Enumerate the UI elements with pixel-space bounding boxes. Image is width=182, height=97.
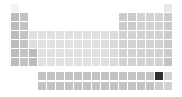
element-cell-es xyxy=(128,82,136,90)
element-cell-lu xyxy=(164,72,172,80)
element-cell-ru xyxy=(74,40,82,48)
element-cell-re xyxy=(65,49,73,57)
element-cell-sc xyxy=(29,31,37,39)
element-cell-y xyxy=(29,40,37,48)
element-cell-he xyxy=(164,4,172,12)
element-cell-mc xyxy=(137,58,145,66)
element-cell-mg xyxy=(20,22,28,30)
element-cell-np xyxy=(74,82,82,90)
element-cell-tl xyxy=(119,49,127,57)
element-cell-hg xyxy=(110,49,118,57)
element-cell-tc xyxy=(65,40,73,48)
element-cell-sg xyxy=(56,58,64,66)
element-cell-md xyxy=(146,82,154,90)
element-cell-hf xyxy=(38,49,46,57)
element-cell-lv xyxy=(146,58,154,66)
element-cell-ar xyxy=(164,22,172,30)
element-cell-no xyxy=(155,82,163,90)
element-cell-os xyxy=(74,49,82,57)
element-cell-eu xyxy=(92,72,100,80)
element-cell-mn xyxy=(65,31,73,39)
element-cell-th xyxy=(47,82,55,90)
element-cell-nb xyxy=(47,40,55,48)
element-cell-cu xyxy=(101,31,109,39)
element-cell-ts xyxy=(155,58,163,66)
element-cell-al xyxy=(119,22,127,30)
element-cell-ra xyxy=(20,58,28,66)
element-cell-sn xyxy=(128,40,136,48)
element-cell-bh xyxy=(65,58,73,66)
element-cell-pt xyxy=(92,49,100,57)
element-cell-mo xyxy=(56,40,64,48)
element-cell-p xyxy=(137,22,145,30)
element-cell-n xyxy=(137,13,145,21)
element-cell-hs xyxy=(74,58,82,66)
element-cell-er xyxy=(137,72,145,80)
element-cell-na xyxy=(11,22,19,30)
element-cell-bi xyxy=(137,49,145,57)
element-cell-k xyxy=(11,31,19,39)
element-cell-rg xyxy=(101,58,109,66)
element-cell-ce xyxy=(47,72,55,80)
element-cell-c xyxy=(128,13,136,21)
element-cell-kr xyxy=(164,31,172,39)
element-cell-yb xyxy=(155,72,163,80)
element-cell-o xyxy=(146,13,154,21)
element-cell-cn xyxy=(110,58,118,66)
element-cell-ti xyxy=(38,31,46,39)
element-cell-mt xyxy=(83,58,91,66)
element-cell-in xyxy=(119,40,127,48)
element-cell-ta xyxy=(47,49,55,57)
element-cell-at xyxy=(155,49,163,57)
element-cell-au xyxy=(101,49,109,57)
element-cell-gd xyxy=(101,72,109,80)
element-cell-v xyxy=(47,31,55,39)
element-cell-og xyxy=(164,58,172,66)
element-cell-db xyxy=(47,58,55,66)
element-cell-po xyxy=(146,49,154,57)
element-cell-rf xyxy=(38,58,46,66)
element-cell-rn xyxy=(164,49,172,57)
element-cell-ba xyxy=(20,49,28,57)
element-cell-xe xyxy=(164,40,172,48)
element-cell-la-placeholder xyxy=(29,49,37,57)
element-cell-nd xyxy=(65,72,73,80)
element-cell-pu xyxy=(83,82,91,90)
element-cell-cs xyxy=(11,49,19,57)
periodic-table-heatmap xyxy=(0,0,182,97)
element-cell-rb xyxy=(11,40,19,48)
element-cell-cm xyxy=(101,82,109,90)
element-cell-li xyxy=(11,13,19,21)
element-cell-as xyxy=(137,31,145,39)
element-cell-lr xyxy=(164,82,172,90)
element-cell-am xyxy=(92,82,100,90)
element-cell-cr xyxy=(56,31,64,39)
element-cell-fm xyxy=(137,82,145,90)
element-cell-sr xyxy=(20,40,28,48)
element-cell-w xyxy=(56,49,64,57)
element-cell-co xyxy=(83,31,91,39)
element-cell-s xyxy=(146,22,154,30)
element-cell-fl xyxy=(128,58,136,66)
element-cell-bk xyxy=(110,82,118,90)
element-cell-dy xyxy=(119,72,127,80)
element-cell-la xyxy=(38,72,46,80)
element-cell-nh xyxy=(119,58,127,66)
element-cell-ir xyxy=(83,49,91,57)
element-cell-ds xyxy=(92,58,100,66)
element-cell-sm xyxy=(83,72,91,80)
element-cell-u xyxy=(65,82,73,90)
element-cell-pb xyxy=(128,49,136,57)
element-cell-cl xyxy=(155,22,163,30)
element-cell-ho xyxy=(128,72,136,80)
element-cell-ac-placeholder xyxy=(29,58,37,66)
element-cell-zn xyxy=(110,31,118,39)
element-cell-sb xyxy=(137,40,145,48)
element-cell-pd xyxy=(92,40,100,48)
element-cell-pa xyxy=(56,82,64,90)
element-cell-ag xyxy=(101,40,109,48)
element-cell-pm xyxy=(74,72,82,80)
element-cell-tm xyxy=(146,72,154,80)
element-cell-pr xyxy=(56,72,64,80)
element-cell-i xyxy=(155,40,163,48)
